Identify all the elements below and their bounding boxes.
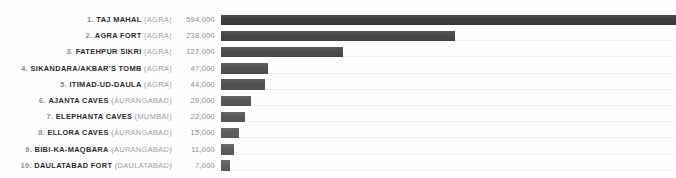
bar-site-name: FATEHPUR SIKRI [76, 47, 142, 56]
bar-city-name: (AURANGABAD) [111, 128, 172, 137]
bar-label: 6. AJANTA CAVES (AURANGABAD) [0, 93, 172, 109]
bar-city-name: (AGRA) [144, 80, 172, 89]
bar-track [221, 105, 676, 106]
bar [221, 160, 230, 171]
bar-city-name: (AGRA) [144, 47, 172, 56]
bar-label: 4. SIKANDARA/AKBAR'S TOMB (AGRA) [0, 61, 172, 77]
bar-row: 3. FATEHPUR SIKRI (AGRA)127,000 [0, 44, 676, 60]
bar-site-name: AJANTA CAVES [48, 96, 108, 105]
bar-value-label: 11,000 [173, 142, 215, 158]
bar-label: 8. ELLORA CAVES (AURANGABAD) [0, 125, 172, 141]
horizontal-bar-chart: 1. TAJ MAHAL (AGRA)594,0002. AGRA FORT (… [0, 0, 676, 178]
bar-value-label: 238,000 [173, 28, 215, 44]
bar-city-name: (AURANGABAD) [111, 96, 172, 105]
bar [221, 79, 265, 90]
bar-row: 4. SIKANDARA/AKBAR'S TOMB (AGRA)47,000 [0, 61, 676, 77]
bar-value-label: 44,000 [173, 77, 215, 93]
bar-value-label: 7,000 [173, 158, 215, 174]
bar-row: 7. ELEPHANTA CAVES (MUMBAI)22,000 [0, 109, 676, 125]
bar-value-label: 15,000 [173, 125, 215, 141]
bar-row: 10. DAULATABAD FORT (DAULATABAD)7,000 [0, 158, 676, 174]
bar-label: 7. ELEPHANTA CAVES (MUMBAI) [0, 109, 172, 125]
bar-site-name: AGRA FORT [95, 31, 142, 40]
bar [221, 112, 245, 123]
bar-rank: 7. [46, 112, 53, 121]
bar-rank: 8. [38, 128, 45, 137]
bar-city-name: (MUMBAI) [135, 112, 172, 121]
bar-track [221, 170, 676, 171]
bar-value-label: 47,000 [173, 61, 215, 77]
bar-track [221, 89, 676, 90]
bar-site-name: BIBI-KA-MAQBARA [34, 145, 108, 154]
bar-track [221, 73, 676, 74]
bar-city-name: (AURANGABAD) [111, 145, 172, 154]
bar-track [221, 137, 676, 138]
bar-value-label: 29,000 [173, 93, 215, 109]
bar-row: 2. AGRA FORT (AGRA)238,000 [0, 28, 676, 44]
bar [221, 144, 234, 155]
bar-label: 9. BIBI-KA-MAQBARA (AURANGABAD) [0, 142, 172, 158]
bar-label: 10. DAULATABAD FORT (DAULATABAD) [0, 158, 172, 174]
bar [221, 128, 239, 139]
bar-rank: 1. [87, 15, 94, 24]
bar-track [221, 121, 676, 122]
bar-rank: 2. [86, 31, 93, 40]
bar-site-name: ITIMAD-UD-DAULA [69, 80, 141, 89]
bar-site-name: DAULATABAD FORT [34, 161, 112, 170]
bar-row: 1. TAJ MAHAL (AGRA)594,000 [0, 12, 676, 28]
bar-city-name: (AGRA) [144, 31, 172, 40]
bar-label: 5. ITIMAD-UD-DAULA (AGRA) [0, 77, 172, 93]
bar-rank: 4. [21, 64, 28, 73]
bar [221, 63, 268, 74]
bar-city-name: (DAULATABAD) [115, 161, 172, 170]
bar-city-name: (AGRA) [144, 64, 172, 73]
bar-rank: 5. [60, 80, 67, 89]
bar-value-label: 127,000 [173, 44, 215, 60]
bar-site-name: TAJ MAHAL [96, 15, 141, 24]
bar-label: 2. AGRA FORT (AGRA) [0, 28, 172, 44]
bar-row: 8. ELLORA CAVES (AURANGABAD)15,000 [0, 125, 676, 141]
bar-row: 5. ITIMAD-UD-DAULA (AGRA)44,000 [0, 77, 676, 93]
bar-site-name: SIKANDARA/AKBAR'S TOMB [30, 64, 141, 73]
bar-row: 6. AJANTA CAVES (AURANGABAD)29,000 [0, 93, 676, 109]
bar-label: 1. TAJ MAHAL (AGRA) [0, 12, 172, 28]
bar-value-label: 594,000 [173, 12, 215, 28]
bar-site-name: ELLORA CAVES [47, 128, 108, 137]
bar-city-name: (AGRA) [144, 15, 172, 24]
bar [221, 96, 251, 107]
bar-track [221, 154, 676, 155]
bar [221, 47, 343, 58]
bar-row: 9. BIBI-KA-MAQBARA (AURANGABAD)11,000 [0, 142, 676, 158]
bar-rank: 9. [25, 145, 32, 154]
bar-site-name: ELEPHANTA CAVES [56, 112, 133, 121]
bar-value-label: 22,000 [173, 109, 215, 125]
bar-label: 3. FATEHPUR SIKRI (AGRA) [0, 44, 172, 60]
bar-rank: 3. [66, 47, 73, 56]
bar [221, 15, 676, 26]
bar [221, 31, 455, 42]
bar-rank: 10. [20, 161, 31, 170]
bar-rank: 6. [39, 96, 46, 105]
